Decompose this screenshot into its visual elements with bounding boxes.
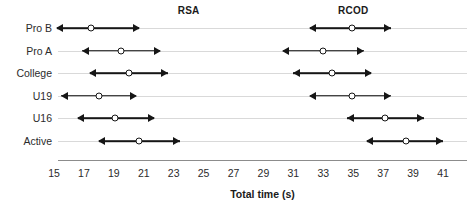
arrow-right-icon	[148, 114, 155, 122]
x-tick-label: 31	[288, 167, 300, 179]
chart-container: RSARCOD Pro BPro ACollegeU19U16Active 15…	[0, 0, 473, 213]
data-point-rsa-u19	[95, 92, 102, 99]
x-tick-label: 15	[48, 167, 60, 179]
category-label-u19: U19	[33, 90, 52, 102]
x-tick-label: 19	[108, 167, 120, 179]
arrow-left-icon	[89, 69, 96, 77]
x-tick-label: 29	[258, 167, 270, 179]
arrow-left-icon	[347, 114, 354, 122]
arrow-right-icon	[365, 69, 372, 77]
x-tick-label: 23	[168, 167, 180, 179]
x-tick-label: 27	[228, 167, 240, 179]
data-point-rsa-pro-a	[118, 47, 125, 54]
data-point-rsa-pro-b	[88, 25, 95, 32]
arrow-right-icon	[417, 114, 424, 122]
x-axis-title: Total time (s)	[230, 188, 295, 200]
category-label-u16: U16	[33, 112, 52, 124]
arrow-right-icon	[154, 47, 161, 55]
category-label-pro-a: Pro A	[26, 45, 52, 57]
x-tick-label: 17	[78, 167, 90, 179]
arrow-left-icon	[61, 92, 68, 100]
series-title-rcod: RCOD	[338, 5, 369, 16]
x-tick-label: 21	[138, 167, 150, 179]
x-tick-label: 25	[198, 167, 210, 179]
arrow-left-icon	[82, 47, 89, 55]
data-point-rcod-pro-b	[348, 25, 355, 32]
interval-line	[57, 27, 139, 29]
x-tick-label: 39	[407, 167, 419, 179]
category-label-active: Active	[23, 135, 52, 147]
data-point-rcod-u19	[348, 92, 355, 99]
arrow-right-icon	[130, 92, 137, 100]
arrow-right-icon	[173, 137, 180, 145]
arrow-left-icon	[56, 24, 63, 32]
arrow-right-icon	[384, 24, 391, 32]
arrow-left-icon	[77, 114, 84, 122]
data-point-rcod-u16	[381, 115, 388, 122]
data-point-rcod-college	[329, 70, 336, 77]
arrow-left-icon	[366, 137, 373, 145]
arrow-left-icon	[309, 24, 316, 32]
arrow-right-icon	[436, 137, 443, 145]
category-label-college: College	[16, 67, 52, 79]
arrow-right-icon	[133, 24, 140, 32]
arrow-left-icon	[282, 47, 289, 55]
data-point-rsa-u16	[112, 115, 119, 122]
arrow-left-icon	[309, 92, 316, 100]
arrow-left-icon	[293, 69, 300, 77]
data-point-rsa-active	[136, 138, 143, 145]
data-point-rcod-active	[402, 138, 409, 145]
arrow-right-icon	[357, 47, 364, 55]
x-tick-label: 41	[437, 167, 449, 179]
x-axis-line	[58, 160, 467, 161]
arrow-right-icon	[161, 69, 168, 77]
data-point-rsa-college	[125, 70, 132, 77]
series-title-rsa: RSA	[178, 5, 200, 16]
x-tick-label: 37	[377, 167, 389, 179]
data-point-rcod-pro-a	[320, 47, 327, 54]
arrow-right-icon	[384, 92, 391, 100]
category-label-pro-b: Pro B	[26, 22, 52, 34]
x-tick-label: 33	[317, 167, 329, 179]
arrow-left-icon	[98, 137, 105, 145]
x-tick-label: 35	[347, 167, 359, 179]
